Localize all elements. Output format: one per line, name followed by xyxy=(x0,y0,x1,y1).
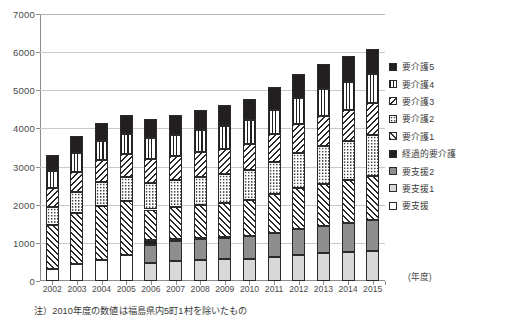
x-axis-tick xyxy=(385,281,386,285)
bar-segment xyxy=(366,74,379,103)
bar-segment xyxy=(169,115,182,135)
legend-item-0[interactable]: 要介護5 xyxy=(389,58,501,75)
bar-segment xyxy=(169,239,182,241)
bar-segment xyxy=(243,200,256,236)
bar-2003 xyxy=(70,136,83,281)
bar-segment xyxy=(342,110,355,141)
bar-segment xyxy=(194,177,207,205)
x-axis-tick xyxy=(151,281,152,285)
bar-segment xyxy=(144,183,157,210)
legend-swatch-icon xyxy=(389,97,397,105)
x-axis-tick xyxy=(299,281,300,285)
bar-segment xyxy=(218,203,231,238)
bar-segment xyxy=(218,105,231,126)
legend-item-7[interactable]: 要支援1 xyxy=(389,180,501,197)
x-axis-tick xyxy=(102,281,103,285)
bar-segment xyxy=(169,241,182,261)
legend-swatch-icon xyxy=(389,184,397,192)
legend-item-4[interactable]: 要介護1 xyxy=(389,128,501,145)
x-axis-tick-label: 2002 xyxy=(43,284,62,294)
x-axis-tick xyxy=(176,281,177,285)
y-axis-tick-label: 2000 xyxy=(13,199,35,210)
x-axis-tick xyxy=(225,281,226,285)
bar-segment xyxy=(292,255,305,281)
bar-segment xyxy=(342,180,355,223)
x-axis-tick xyxy=(274,281,275,285)
bar-segment xyxy=(70,136,83,153)
bar-segment xyxy=(243,144,256,170)
bar-segment xyxy=(46,269,59,281)
x-axis-tick-label: 2011 xyxy=(265,284,283,294)
bar-segment xyxy=(243,99,256,121)
x-axis-tick xyxy=(323,281,324,285)
bar-segment xyxy=(169,261,182,281)
bar-2004 xyxy=(95,123,108,281)
bar-2007 xyxy=(169,115,182,281)
bar-segment xyxy=(144,263,157,281)
bar-segment xyxy=(342,223,355,252)
bar-2013 xyxy=(317,64,330,281)
legend-item-5[interactable]: 経過的要介護 xyxy=(389,145,501,162)
bar-segment xyxy=(342,56,355,82)
y-axis-tick-label: 6000 xyxy=(13,47,35,58)
bar-segment xyxy=(144,240,157,245)
bar-segment xyxy=(70,264,83,281)
legend-label: 要介護4 xyxy=(402,78,434,91)
bar-segment xyxy=(95,206,108,260)
legend-item-6[interactable]: 要支援2 xyxy=(389,162,501,179)
bar-segment xyxy=(268,162,281,194)
bar-segment xyxy=(194,110,207,130)
legend-item-3[interactable]: 要介護2 xyxy=(389,110,501,127)
bar-2015 xyxy=(366,49,379,281)
bar-segment xyxy=(366,103,379,135)
legend-label: 要介護5 xyxy=(402,60,434,73)
bar-segment xyxy=(120,255,133,281)
bar-segment xyxy=(46,207,59,226)
legend-item-8[interactable]: 要支援 xyxy=(389,197,501,214)
x-axis-tick-label: 2010 xyxy=(240,284,259,294)
legend-swatch-icon xyxy=(389,150,397,158)
chart-container: 01000200030004000500060007000 2002200320… xyxy=(0,0,505,324)
bar-segment xyxy=(169,135,182,156)
bar-segment xyxy=(243,236,256,258)
bar-segment xyxy=(317,253,330,281)
bar-segment xyxy=(292,124,305,153)
bar-2002 xyxy=(46,155,59,281)
bar-2006 xyxy=(144,119,157,281)
x-axis-tick-label: 2013 xyxy=(314,284,333,294)
bar-segment xyxy=(120,154,133,177)
bar-segment xyxy=(342,141,355,180)
x-axis-tick xyxy=(373,281,374,285)
x-axis-tick-label: 2009 xyxy=(215,284,234,294)
gridline xyxy=(40,205,385,206)
bar-segment xyxy=(169,207,182,239)
bar-segment xyxy=(292,98,305,124)
bar-segment xyxy=(120,177,133,202)
bar-segment xyxy=(144,210,157,240)
bar-2008 xyxy=(194,110,207,281)
bar-segment xyxy=(95,260,108,281)
bar-segment xyxy=(366,176,379,220)
bar-segment xyxy=(218,126,231,149)
legend-item-2[interactable]: 要介護3 xyxy=(389,93,501,110)
x-axis-tick xyxy=(348,281,349,285)
bar-segment xyxy=(366,251,379,282)
bar-2005 xyxy=(120,115,133,281)
bar-segment xyxy=(70,213,83,264)
chart-footnote: 注）2010年度の数値は福島県内5町1村を除いたもの xyxy=(34,303,247,317)
bar-segment xyxy=(218,259,231,281)
gridline xyxy=(40,128,385,129)
x-axis-tick xyxy=(77,281,78,285)
bar-segment xyxy=(243,259,256,281)
bar-segment xyxy=(194,205,207,238)
legend-item-1[interactable]: 要介護4 xyxy=(389,75,501,92)
bar-segment xyxy=(46,155,59,171)
bar-2014 xyxy=(342,56,355,281)
bar-segment xyxy=(243,170,256,200)
bar-segment xyxy=(268,134,281,162)
legend-swatch-icon xyxy=(389,202,397,210)
x-axis-tick-label: 2014 xyxy=(338,284,357,294)
bar-segment xyxy=(120,201,133,255)
legend-swatch-icon xyxy=(389,167,397,175)
bar-segment xyxy=(95,182,108,205)
